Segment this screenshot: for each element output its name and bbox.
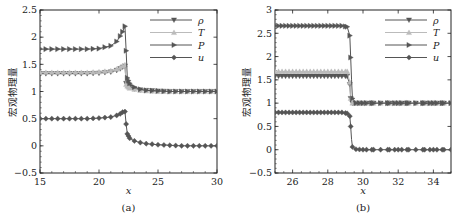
data-point-marker [67,116,72,121]
data-point-marker [91,46,96,51]
data-point-marker [203,143,208,148]
y-tick-label: 2.5 [257,28,272,39]
data-point-marker [448,147,453,152]
data-point-marker [102,115,107,120]
y-tick-label: −0.5 [249,167,272,178]
y-tick-label: 1 [31,86,37,97]
figure: −0.500.511.522.515202530x宏观物理量(a)ρTPu−0.… [0,0,459,220]
data-point-marker [399,147,404,152]
data-point-marker [191,143,196,148]
data-point-marker [79,47,84,52]
data-point-marker [171,55,176,60]
data-point-marker [103,45,108,50]
x-tick-label: 26 [287,176,299,187]
y-tick-label: 2 [266,51,272,62]
y-tick-label: 1 [266,97,272,108]
series-line [279,76,451,103]
legend-label-1: T [198,27,205,38]
data-point-marker [434,147,439,152]
legend-label-0: ρ [432,15,439,26]
y-tick-label: 1.5 [22,59,37,70]
data-point-marker [407,42,412,47]
data-point-marker [406,55,411,60]
x-axis-label: x [126,185,132,196]
x-tick-label: 32 [392,176,404,187]
y-tick-label: 0 [31,140,37,151]
y-axis-label: 宏观物理量 [7,67,18,117]
legend-label-0: ρ [197,15,204,26]
data-point-marker [85,116,90,121]
data-point-marker [73,47,78,52]
y-tick-label: 2 [31,31,37,42]
data-point-marker [132,138,137,143]
data-point-marker [197,143,202,148]
y-axis-label: 宏观物理量 [241,67,252,117]
x-tick-label: 20 [93,176,105,187]
y-tick-label: 1.5 [257,74,272,85]
data-point-marker [150,142,155,147]
y-tick-label: 0.5 [257,121,272,132]
x-tick-label: 25 [152,176,164,187]
data-point-marker [124,122,129,127]
x-tick-label: 15 [34,176,46,187]
y-tick-label: 2.5 [22,4,37,15]
panel-label: (a) [122,202,136,213]
data-point-marker [91,116,96,121]
y-tick-label: 3 [266,4,272,15]
y-tick-label: 0 [266,144,272,155]
data-point-marker [61,116,66,121]
data-point-marker [167,143,172,148]
chart-panel-a: −0.500.511.522.515202530x宏观物理量(a)ρTPu [7,4,223,213]
series-line [279,112,451,149]
legend-label-3: u [198,52,204,63]
data-point-marker [50,47,55,52]
series-line [40,112,217,146]
data-point-marker [214,143,219,148]
legend: ρTPu [385,15,440,64]
data-point-marker [161,142,166,147]
data-point-marker [144,141,149,146]
data-point-marker [173,143,178,148]
data-point-marker [67,47,72,52]
data-point-marker [155,142,160,147]
data-point-marker [108,114,113,119]
data-point-marker [44,47,49,52]
data-point-marker [56,47,61,52]
y-tick-label: 0.5 [22,113,37,124]
data-point-marker [378,147,383,152]
data-point-marker [97,46,102,51]
series-group [272,23,453,152]
data-point-marker [172,42,177,47]
data-point-marker [96,116,101,121]
data-point-marker [348,124,353,129]
data-point-marker [364,147,369,152]
data-point-marker [179,143,184,148]
data-point-marker [79,116,84,121]
data-point-marker [49,116,54,121]
x-tick-label: 28 [322,176,334,187]
legend-label-2: P [432,40,440,51]
data-point-marker [37,116,42,121]
data-point-marker [115,39,120,44]
data-point-marker [43,116,48,121]
x-tick-label: 30 [211,176,223,187]
data-point-marker [209,143,214,148]
legend-label-2: P [197,40,205,51]
data-point-marker [413,147,418,152]
series-line [279,26,451,103]
legend: ρTPu [150,15,205,64]
data-point-marker [73,116,78,121]
x-tick-label: 34 [427,176,439,187]
data-point-marker [138,140,143,145]
panel-label: (b) [356,202,370,213]
data-point-marker [55,116,60,121]
chart-panel-b: −0.500.511.522.532628303234x宏观物理量(b)ρTPu [241,4,454,213]
data-point-marker [185,143,190,148]
legend-label-1: T [433,27,440,38]
legend-label-3: u [433,52,439,63]
x-axis-label: x [360,185,366,196]
data-point-marker [85,47,90,52]
data-point-marker [62,47,67,52]
series-group [37,24,219,149]
